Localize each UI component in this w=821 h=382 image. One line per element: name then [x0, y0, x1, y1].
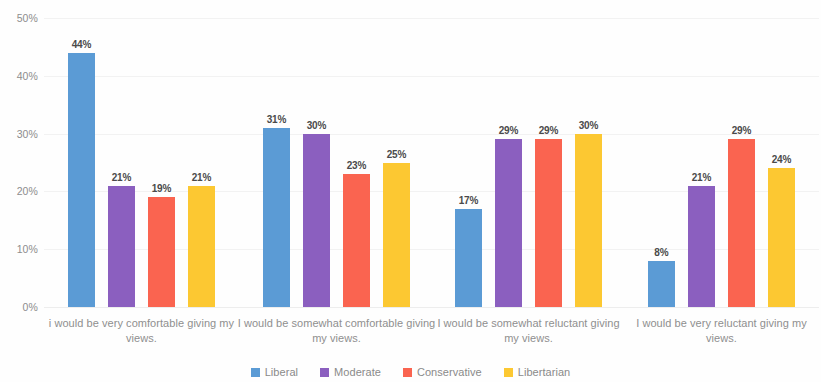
bar-conservative-group-4[interactable]: 29%: [728, 139, 755, 307]
bar-liberal-group-4[interactable]: 8%: [648, 261, 675, 307]
bar-rect: [535, 139, 562, 307]
bar-rect: [688, 186, 715, 307]
chart-legend: LiberalModerateConservativeLibertarian: [0, 366, 821, 378]
bar-rect: [383, 163, 410, 308]
bar-rect: [728, 139, 755, 307]
y-axis-tick-label: 10%: [17, 243, 38, 255]
bar-value-label: 31%: [267, 114, 287, 125]
bar-rect: [303, 134, 330, 307]
bar-value-label: 21%: [192, 172, 212, 183]
legend-swatch-icon: [403, 368, 412, 377]
legend-item-libertarian[interactable]: Libertarian: [504, 366, 571, 378]
gridline: [44, 76, 819, 77]
bar-liberal-group-1[interactable]: 44%: [68, 53, 95, 307]
bar-conservative-group-2[interactable]: 23%: [343, 174, 370, 307]
bar-moderate-group-2[interactable]: 30%: [303, 134, 330, 307]
legend-label: Liberal: [265, 366, 298, 378]
y-axis-tick-label: 30%: [17, 128, 38, 140]
bar-libertarian-group-1[interactable]: 21%: [188, 186, 215, 307]
bar-rect: [495, 139, 522, 307]
bar-moderate-group-4[interactable]: 21%: [688, 186, 715, 307]
bar-value-label: 29%: [539, 125, 559, 136]
bar-rect: [648, 261, 675, 307]
bar-rect: [768, 168, 795, 307]
y-axis-tick-label: 40%: [17, 70, 38, 82]
bar-value-label: 30%: [579, 120, 599, 131]
x-axis-category-label: I would be somewhat reluctant giving my …: [429, 316, 629, 346]
x-axis-category-label: i would be very comfortable giving my vi…: [42, 316, 242, 346]
legend-swatch-icon: [251, 368, 260, 377]
bar-value-label: 29%: [732, 125, 752, 136]
bar-value-label: 21%: [692, 172, 712, 183]
bar-value-label: 44%: [72, 39, 92, 50]
gridline: [44, 134, 819, 135]
bar-moderate-group-3[interactable]: 29%: [495, 139, 522, 307]
bar-value-label: 17%: [459, 195, 479, 206]
bar-liberal-group-3[interactable]: 17%: [455, 209, 482, 307]
legend-label: Libertarian: [518, 366, 571, 378]
y-axis: 0%10%20%30%40%50%: [0, 0, 44, 382]
x-axis-baseline: [44, 307, 819, 308]
bar-value-label: 25%: [387, 149, 407, 160]
bar-libertarian-group-2[interactable]: 25%: [383, 163, 410, 308]
bar-rect: [68, 53, 95, 307]
legend-swatch-icon: [320, 368, 329, 377]
bar-value-label: 23%: [347, 160, 367, 171]
bar-value-label: 24%: [772, 154, 792, 165]
legend-swatch-icon: [504, 368, 513, 377]
legend-item-conservative[interactable]: Conservative: [403, 366, 482, 378]
bar-liberal-group-2[interactable]: 31%: [263, 128, 290, 307]
bar-value-label: 29%: [499, 125, 519, 136]
legend-item-liberal[interactable]: Liberal: [251, 366, 298, 378]
grouped-bar-chart: 0%10%20%30%40%50% 44%21%19%21%31%30%23%2…: [0, 0, 821, 382]
y-axis-tick-label: 20%: [17, 185, 38, 197]
x-axis-category-label: I would be very reluctant giving my view…: [622, 316, 821, 346]
legend-label: Moderate: [334, 366, 381, 378]
bar-rect: [108, 186, 135, 307]
bar-value-label: 21%: [112, 172, 132, 183]
y-axis-tick-label: 50%: [17, 12, 38, 24]
bar-rect: [188, 186, 215, 307]
bar-libertarian-group-3[interactable]: 30%: [575, 134, 602, 307]
bar-rect: [148, 197, 175, 307]
bar-libertarian-group-4[interactable]: 24%: [768, 168, 795, 307]
bar-rect: [343, 174, 370, 307]
bar-value-label: 8%: [654, 247, 668, 258]
bar-moderate-group-1[interactable]: 21%: [108, 186, 135, 307]
bar-rect: [455, 209, 482, 307]
legend-item-moderate[interactable]: Moderate: [320, 366, 381, 378]
y-axis-tick-label: 0%: [23, 301, 38, 313]
legend-label: Conservative: [417, 366, 482, 378]
bar-rect: [575, 134, 602, 307]
bar-value-label: 19%: [152, 183, 172, 194]
gridline: [44, 18, 819, 19]
bar-conservative-group-1[interactable]: 19%: [148, 197, 175, 307]
bar-value-label: 30%: [307, 120, 327, 131]
bar-rect: [263, 128, 290, 307]
x-axis-category-label: I would be somewhat comfortable giving m…: [237, 316, 437, 346]
bar-conservative-group-3[interactable]: 29%: [535, 139, 562, 307]
